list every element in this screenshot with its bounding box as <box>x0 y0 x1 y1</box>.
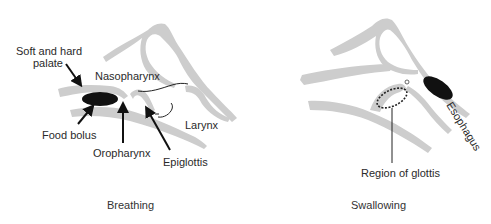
airway-line <box>138 83 188 91</box>
label-esophagus: Esophagus <box>444 100 484 153</box>
anatomy-diagram: Soft and hard palate Nasopharynx Food bo… <box>0 0 491 224</box>
food-bolus-shape <box>82 92 118 106</box>
swallowing-panel: Esophagus Region of glottis Swallowing <box>300 18 484 211</box>
lower-band-2 <box>308 101 432 153</box>
label-food-bolus: Food bolus <box>42 129 97 141</box>
breathing-panel: Soft and hard palate Nasopharynx Food bo… <box>16 23 237 211</box>
label-oropharynx: Oropharynx <box>93 147 151 159</box>
label-nasopharynx: Nasopharynx <box>95 70 160 82</box>
epiglottis-shape <box>130 90 155 113</box>
label-palate-line1: Soft and hard <box>16 45 82 57</box>
caption-swallowing: Swallowing <box>351 199 406 211</box>
label-palate-line2: palate <box>33 57 63 69</box>
vocal-fold-line <box>158 103 172 117</box>
caption-breathing: Breathing <box>107 199 154 211</box>
palate-band-2 <box>300 64 393 85</box>
label-epiglottis: Epiglottis <box>163 156 208 168</box>
palate-arrow <box>66 64 80 84</box>
label-larynx: Larynx <box>185 119 219 131</box>
label-region-of-glottis: Region of glottis <box>361 167 440 179</box>
